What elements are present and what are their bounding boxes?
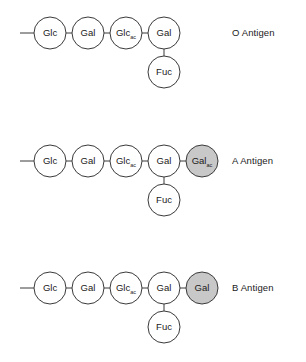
node-glc[interactable]: Glc: [34, 17, 66, 49]
node-gal[interactable]: Gal: [72, 272, 104, 304]
node-label-base: Fuc: [156, 321, 172, 332]
node-label-base: Gal: [81, 27, 96, 38]
node-label: Fuc: [156, 194, 172, 205]
node-gal[interactable]: Gal: [72, 17, 104, 49]
node-label: Fuc: [156, 66, 172, 77]
node-label: Glc: [43, 282, 58, 293]
node-label: Gal: [157, 282, 172, 293]
node-label-base: Gal: [192, 155, 207, 166]
node-label: Gal: [81, 27, 96, 38]
node-label-base: Gal: [157, 282, 172, 293]
node-label-base: Gal: [81, 282, 96, 293]
node-label: Gal: [157, 155, 172, 166]
node-label-base: Gal: [157, 155, 172, 166]
antigen-structure-diagram: GlcGalGlcacGalFucGlcGalGlcacGalGalacFucG…: [0, 0, 306, 362]
node-label: Glc: [43, 155, 58, 166]
node-label: Gal: [157, 27, 172, 38]
node-glc[interactable]: Glc: [34, 145, 66, 177]
node-label-subscript: ac: [206, 162, 212, 168]
node-label-base: Glc: [43, 282, 58, 293]
node-galac[interactable]: Galac: [186, 145, 218, 177]
node-label-base: Gal: [195, 282, 210, 293]
node-gal[interactable]: Gal: [72, 145, 104, 177]
node-label-subscript: ac: [130, 34, 136, 40]
node-label: Gal: [195, 282, 210, 293]
node-label-base: Glc: [116, 155, 131, 166]
node-glcac[interactable]: Glcac: [110, 17, 142, 49]
node-glc[interactable]: Glc: [34, 272, 66, 304]
node-label-subscript: ac: [130, 162, 136, 168]
node-label-base: Glc: [116, 27, 131, 38]
node-gal[interactable]: Gal: [186, 272, 218, 304]
node-fuc[interactable]: Fuc: [148, 311, 180, 343]
node-label: Glc: [43, 27, 58, 38]
node-label: Gal: [81, 155, 96, 166]
node-label-base: Gal: [157, 27, 172, 38]
node-label-base: Gal: [81, 155, 96, 166]
node-gal[interactable]: Gal: [148, 145, 180, 177]
antigen-label-b-antigen: B Antigen: [232, 282, 274, 293]
antigen-label-a-antigen: A Antigen: [232, 155, 273, 166]
diagram-content: GlcGalGlcacGalFucGlcGalGlcacGalGalacFucG…: [20, 17, 218, 343]
node-gal[interactable]: Gal: [148, 272, 180, 304]
node-label-base: Glc: [43, 27, 58, 38]
node-label-subscript: ac: [130, 289, 136, 295]
antigen-label-o-antigen: O Antigen: [232, 27, 275, 38]
node-gal[interactable]: Gal: [148, 17, 180, 49]
node-label-base: Fuc: [156, 194, 172, 205]
node-label-base: Glc: [116, 282, 131, 293]
node-glcac[interactable]: Glcac: [110, 145, 142, 177]
node-label-base: Fuc: [156, 66, 172, 77]
node-fuc[interactable]: Fuc: [148, 184, 180, 216]
node-glcac[interactable]: Glcac: [110, 272, 142, 304]
node-label: Gal: [81, 282, 96, 293]
node-label-base: Glc: [43, 155, 58, 166]
node-label: Fuc: [156, 321, 172, 332]
node-fuc[interactable]: Fuc: [148, 56, 180, 88]
